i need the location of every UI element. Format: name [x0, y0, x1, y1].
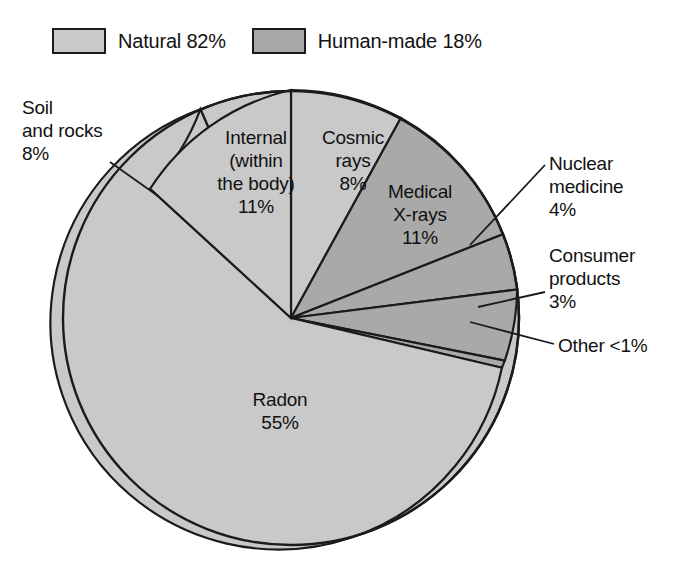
- label-nuclear-line1: Nuclear: [549, 152, 623, 175]
- label-internal-line1: Internal: [196, 126, 316, 149]
- label-soil-and-rocks: Soil and rocks 8%: [22, 96, 103, 165]
- label-consumer-line1: Consumer: [549, 244, 635, 267]
- label-radon-value: 55%: [200, 411, 360, 434]
- label-nuclear-value: 4%: [549, 198, 623, 221]
- label-medical-line1: Medical: [362, 180, 478, 203]
- label-consumer-line2: products: [549, 267, 635, 290]
- label-internal-value: 11%: [196, 195, 316, 218]
- label-other: Other <1%: [558, 334, 648, 357]
- pie-chart-figure: Natural 82% Human-made 18%: [0, 0, 686, 562]
- label-medical-line2: X-rays: [362, 203, 478, 226]
- label-medical-xrays: Medical X-rays 11%: [362, 180, 478, 249]
- label-soil-line1: Soil: [22, 96, 103, 119]
- chart-stage: Soil and rocks 8% Internal (within the b…: [0, 0, 686, 562]
- label-medical-value: 11%: [362, 226, 478, 249]
- label-internal-line3: the body): [196, 172, 316, 195]
- label-consumer-products: Consumer products 3%: [549, 244, 635, 313]
- label-nuclear-line2: medicine: [549, 175, 623, 198]
- label-internal-line2: (within: [196, 149, 316, 172]
- label-nuclear-medicine: Nuclear medicine 4%: [549, 152, 623, 221]
- label-radon-line1: Radon: [200, 388, 360, 411]
- label-consumer-value: 3%: [549, 290, 635, 313]
- label-internal: Internal (within the body) 11%: [196, 126, 316, 218]
- label-cosmic-line2: rays: [310, 149, 396, 172]
- label-radon: Radon 55%: [200, 388, 360, 434]
- label-soil-value: 8%: [22, 142, 103, 165]
- label-other-line1: Other <1%: [558, 334, 648, 357]
- label-cosmic-line1: Cosmic: [310, 126, 396, 149]
- label-soil-line2: and rocks: [22, 119, 103, 142]
